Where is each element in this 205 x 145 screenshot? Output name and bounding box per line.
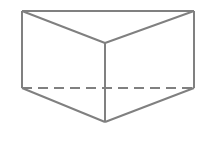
upper-left-diagonal-edge xyxy=(22,11,105,43)
triangular-prism-figure xyxy=(0,0,205,145)
figure-canvas xyxy=(0,0,205,145)
upper-right-diagonal-edge xyxy=(105,11,194,43)
lower-right-diagonal-edge xyxy=(105,88,194,122)
prism-solid-edges xyxy=(22,11,194,122)
lower-left-diagonal-edge xyxy=(22,88,105,122)
